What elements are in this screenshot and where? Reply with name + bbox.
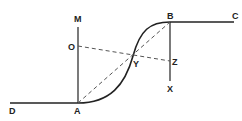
label-B: B — [167, 11, 174, 21]
label-D: D — [9, 106, 16, 116]
label-Y: Y — [133, 59, 139, 69]
label-O: O — [68, 42, 75, 52]
s-curve-diagram: M O A D B C Y Z X — [0, 0, 242, 121]
dashed-line-AB — [78, 22, 170, 103]
label-M: M — [74, 14, 82, 24]
label-X: X — [167, 84, 173, 94]
label-A: A — [74, 106, 81, 116]
dashed-line-OZ — [78, 46, 170, 61]
label-C: C — [232, 11, 239, 21]
label-Z: Z — [172, 57, 178, 67]
